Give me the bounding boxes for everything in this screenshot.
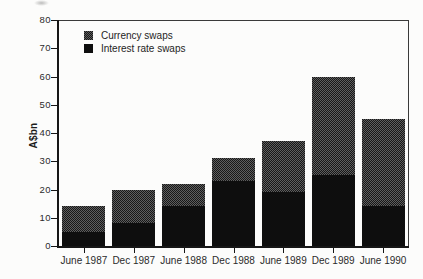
bar-segment-interest-rate-swaps [262, 192, 305, 246]
bar-segment-interest-rate-swaps [312, 175, 355, 246]
x-tick-mark [383, 248, 384, 253]
y-tick-label: 30 [24, 155, 51, 167]
plot-right-border [408, 20, 409, 247]
x-tick-mark [283, 248, 284, 253]
y-tick-label: 40 [24, 127, 51, 139]
print-artifact [34, 0, 49, 6]
bar-segment-currency-swaps [62, 206, 105, 231]
legend-label-currency-swaps: Currency swaps [101, 30, 173, 41]
bar-segment-currency-swaps [312, 77, 355, 176]
legend: Currency swaps Interest rate swaps [84, 29, 185, 55]
interest-rate-swaps-swatch [84, 44, 93, 53]
bar-segment-currency-swaps [212, 158, 255, 181]
x-tick-mark [84, 248, 85, 253]
x-tick-mark [234, 248, 235, 253]
legend-item-currency-swaps: Currency swaps [84, 29, 185, 41]
bar-segment-currency-swaps [162, 184, 205, 207]
bar-segment-interest-rate-swaps [362, 206, 405, 246]
bar-segment-currency-swaps [112, 190, 155, 224]
legend-label-interest-rate-swaps: Interest rate swaps [101, 43, 185, 54]
bar-segment-interest-rate-swaps [162, 206, 205, 246]
x-tick-mark [134, 248, 135, 253]
y-tick-mark [51, 190, 57, 191]
y-tick-mark [51, 48, 57, 49]
bar-segment-interest-rate-swaps [112, 223, 155, 246]
y-tick-label: 20 [24, 184, 51, 196]
bar-segment-currency-swaps [362, 119, 405, 207]
bar-segment-currency-swaps [262, 141, 305, 192]
y-tick-label: 70 [24, 42, 51, 54]
y-tick-label: 0 [24, 240, 51, 252]
y-tick-label: 60 [24, 71, 51, 83]
y-tick-mark [51, 105, 57, 106]
y-tick-mark [51, 20, 57, 21]
x-tick-label: June 1990 [353, 255, 413, 267]
y-tick-mark [51, 77, 57, 78]
x-tick-mark [184, 248, 185, 253]
legend-item-interest-rate-swaps: Interest rate swaps [84, 42, 185, 54]
y-tick-mark [51, 133, 57, 134]
y-tick-label: 50 [24, 99, 51, 111]
bar-segment-interest-rate-swaps [62, 232, 105, 246]
y-tick-label: 80 [24, 14, 51, 26]
y-tick-mark [51, 218, 57, 219]
swaps-outstanding-stacked-bar-chart: A$bn Currency swaps Interest rate swaps … [0, 0, 423, 279]
x-tick-mark [333, 248, 334, 253]
y-tick-mark [51, 246, 57, 247]
y-tick-label: 10 [24, 212, 51, 224]
bar-segment-interest-rate-swaps [212, 181, 255, 246]
currency-swaps-swatch [84, 31, 93, 40]
y-tick-mark [51, 161, 57, 162]
